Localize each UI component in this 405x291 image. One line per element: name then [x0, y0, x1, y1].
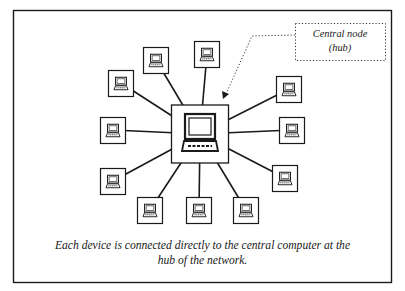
device-upper-left: [109, 71, 134, 97]
diagram-frame: Central node (hub) Each device is connec…: [0, 0, 405, 291]
hub-label-line-2: (hub): [296, 41, 384, 55]
device-bottom: [187, 198, 212, 224]
callout-arrow-head: [222, 91, 229, 99]
device-right: [280, 118, 305, 144]
caption-line-1: Each device is connected directly to the…: [20, 238, 385, 253]
device-top-left: [144, 48, 169, 74]
device-bottom-right: [234, 198, 259, 224]
device-bottom-left: [138, 198, 163, 224]
hub-label: Central node (hub): [296, 27, 384, 54]
caption-line-2: hub of the network.: [20, 253, 385, 268]
device-upper-right: [277, 77, 302, 103]
device-lower-left: [101, 169, 126, 195]
hub-node: [172, 105, 229, 163]
hub-label-line-1: Central node: [296, 27, 384, 41]
device-lower-right: [273, 166, 298, 192]
device-left: [101, 118, 126, 144]
device-top: [195, 42, 220, 68]
caption: Each device is connected directly to the…: [20, 238, 385, 268]
